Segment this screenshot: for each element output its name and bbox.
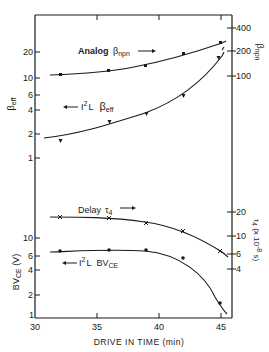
tick-200: 200 xyxy=(236,46,251,56)
x-tick-labels: 30 35 40 45 xyxy=(30,322,226,332)
annotation-analog-beta: βnpn xyxy=(113,46,130,58)
right-lower-tick-labels: 20 10 6 4 xyxy=(236,207,246,274)
left-lower-ticks xyxy=(35,238,40,295)
tick-1: 1 xyxy=(29,310,34,320)
right-upper-axis-title: βnpn xyxy=(253,44,265,61)
tick-400: 400 xyxy=(236,23,251,33)
x-axis-title: DRIVE IN TIME (min) xyxy=(94,337,185,347)
top-ticks xyxy=(97,15,221,20)
right-lower-axis-title: τ4 (x 10-8 s) xyxy=(251,219,263,262)
x-tick-45: 45 xyxy=(216,322,226,332)
x-ticks xyxy=(97,313,221,318)
tick-4: 4 xyxy=(28,105,33,115)
tick-2: 2 xyxy=(28,290,33,300)
series-i2l-beta-eff xyxy=(44,47,224,143)
right-upper-tick-labels: 400 200 100 xyxy=(236,23,251,81)
arrow-left-icon xyxy=(63,105,67,109)
annotation-delay-tau4: Delayτ4 xyxy=(78,205,136,216)
x-tick-30: 30 xyxy=(30,322,40,332)
left-upper-tick-labels: 20 10 6 4 2 1 xyxy=(23,47,33,163)
tick-4: 4 xyxy=(236,264,241,274)
tick-10: 10 xyxy=(23,233,33,243)
axes-frame xyxy=(35,15,232,318)
annotation-delay-text: Delayτ4 xyxy=(78,205,113,216)
annotation-i2l-bvce-text: I2LBVCE xyxy=(79,256,119,269)
tick-10: 10 xyxy=(23,73,33,83)
left-lower-tick-labels: 10 6 4 2 1 xyxy=(23,233,34,320)
series-i2l-bvce xyxy=(50,248,227,314)
annotation-i2l-bvce: I2LBVCE xyxy=(62,256,119,269)
tick-20: 20 xyxy=(23,47,33,57)
arrow-right-icon xyxy=(152,49,156,53)
left-upper-ticks xyxy=(35,52,40,158)
annotation-analog-beta-npn: Analog βnpn xyxy=(78,46,156,58)
tick-20: 20 xyxy=(236,207,246,217)
tick-2: 2 xyxy=(28,129,33,139)
tick-100: 100 xyxy=(236,71,251,81)
arrow-right-icon xyxy=(132,206,136,210)
x-tick-35: 35 xyxy=(92,322,102,332)
x-tick-40: 40 xyxy=(154,322,164,332)
chart-figure: 30 35 40 45 DRIVE IN TIME (min) 20 10 6 … xyxy=(0,0,269,352)
left-upper-axis-title: βeff xyxy=(6,98,17,111)
tick-4: 4 xyxy=(28,265,33,275)
arrow-left-icon xyxy=(62,261,66,265)
tick-10: 10 xyxy=(236,231,246,241)
tick-6: 6 xyxy=(236,249,241,259)
left-lower-axis-title: BVCE (V) xyxy=(11,254,22,290)
tick-6: 6 xyxy=(28,90,33,100)
annotation-i2l-beta-text: I2Lβeff xyxy=(81,100,113,113)
tick-1: 1 xyxy=(28,153,33,163)
tick-6: 6 xyxy=(28,251,33,261)
annotation-analog-text: Analog xyxy=(78,46,109,56)
series-analog-beta-npn xyxy=(50,41,226,76)
annotation-i2l-beta-eff: I2Lβeff xyxy=(63,100,113,113)
